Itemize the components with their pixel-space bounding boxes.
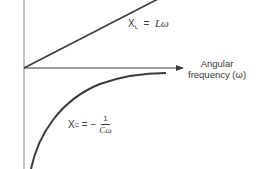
xl-subscript: L: [135, 24, 138, 30]
xc-sign: −: [90, 120, 96, 130]
xc-subscript: C: [75, 122, 79, 128]
xl-symbol: X: [128, 18, 135, 29]
x-axis-label-line1: Angular: [188, 58, 246, 69]
xc-numerator: 1: [101, 115, 109, 125]
xl-expression: Lω: [155, 17, 169, 29]
x-axis-label: Angular frequency (ω): [188, 58, 246, 80]
xc-equals: =: [82, 120, 88, 130]
capacitive-reactance-label: XC = − 1 Cω: [68, 115, 112, 135]
xl-equals: =: [144, 18, 150, 29]
inductive-reactance-label: XL = Lω: [128, 18, 169, 30]
xc-fraction: 1 Cω: [99, 115, 111, 135]
inductive-reactance-line: [24, 0, 158, 68]
xc-denominator: Cω: [99, 125, 111, 135]
xc-symbol: X: [68, 120, 75, 130]
x-axis-label-line2: frequency (ω): [188, 69, 246, 80]
